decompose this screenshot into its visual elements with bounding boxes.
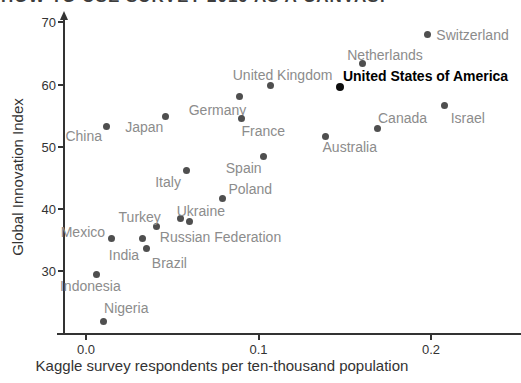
point-indonesia xyxy=(93,271,100,278)
point-label-china: China xyxy=(65,129,102,143)
point-germany xyxy=(236,93,243,100)
y-tick-label-50: 50 xyxy=(26,141,56,154)
x-axis-title: Kaggle survey respondents per ten-thousa… xyxy=(22,357,422,374)
point-spain xyxy=(260,153,267,160)
y-tick-mark-30 xyxy=(58,270,63,272)
point-united-states-of-america xyxy=(336,83,344,91)
y-tick-label-40: 40 xyxy=(26,203,56,216)
point-nigeria xyxy=(100,318,107,325)
point-switzerland xyxy=(424,31,431,38)
point-label-ukraine: Ukraine xyxy=(177,204,225,218)
point-label-poland: Poland xyxy=(228,182,272,196)
point-label-united-states-of-america: United States of America xyxy=(343,69,508,83)
point-label-brazil: Brazil xyxy=(152,256,187,270)
point-label-nigeria: Nigeria xyxy=(104,301,148,315)
x-tick-label-0.0: 0.0 xyxy=(66,343,106,356)
point-label-france: France xyxy=(241,124,285,138)
point-label-canada: Canada xyxy=(378,111,427,125)
point-poland xyxy=(219,195,226,202)
point-israel xyxy=(441,102,448,109)
y-tick-label-30: 30 xyxy=(26,265,56,278)
y-tick-mark-50 xyxy=(58,146,63,148)
scatter-plot-screenshot: HOW TO USE SURVEY 2019 AS A CANVAS! 3040… xyxy=(0,0,521,383)
x-tick-mark-0.1 xyxy=(258,335,260,340)
point-label-united-kingdom: United Kingdom xyxy=(233,68,333,82)
point-mexico xyxy=(108,235,115,242)
point-italy xyxy=(183,167,190,174)
point-label-italy: Italy xyxy=(155,175,181,189)
x-axis-line xyxy=(57,333,521,335)
point-label-mexico: Mexico xyxy=(61,225,105,239)
point-label-india: India xyxy=(109,248,139,262)
point-label-turkey: Turkey xyxy=(119,210,161,224)
point-label-spain: Spain xyxy=(226,161,262,175)
y-tick-mark-70 xyxy=(58,21,63,23)
x-tick-mark-0.2 xyxy=(430,335,432,340)
point-russian-federation xyxy=(186,218,193,225)
y-tick-label-60: 60 xyxy=(26,79,56,92)
point-label-russian-federation: Russian Federation xyxy=(160,230,281,244)
x-tick-label-0.1: 0.1 xyxy=(239,343,279,356)
point-france xyxy=(238,115,245,122)
point-india xyxy=(139,235,146,242)
point-label-indonesia: Indonesia xyxy=(60,279,121,293)
y-tick-mark-40 xyxy=(58,208,63,210)
point-brazil xyxy=(143,245,150,252)
point-label-australia: Australia xyxy=(323,140,377,154)
point-label-japan: Japan xyxy=(125,120,163,134)
point-label-israel: Israel xyxy=(451,111,485,125)
x-tick-mark-0.0 xyxy=(85,335,87,340)
page-title: HOW TO USE SURVEY 2019 AS A CANVAS! xyxy=(1,0,386,7)
y-axis-title: Global Innovation Index xyxy=(9,98,26,256)
y-tick-label-70: 70 xyxy=(26,16,56,29)
y-tick-mark-60 xyxy=(58,84,63,86)
point-label-netherlands: Netherlands xyxy=(347,48,423,62)
point-label-switzerland: Switzerland xyxy=(436,28,508,42)
point-label-germany: Germany xyxy=(189,103,247,117)
y-axis-arrow-icon xyxy=(60,11,68,20)
point-china xyxy=(103,123,110,130)
x-tick-label-0.2: 0.2 xyxy=(411,343,451,356)
